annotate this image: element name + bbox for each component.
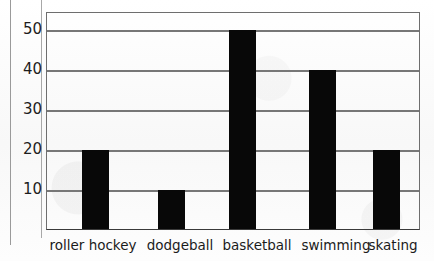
ytick-label-10: 10: [14, 182, 42, 197]
plot-frame: [46, 12, 420, 230]
x-axis-labels: roller hockey dodgeball basketball swimm…: [0, 236, 434, 258]
chart-page: 50 40 30 20 10 roller hockey dodgeball b…: [0, 0, 434, 261]
bar-chart: 50 40 30 20 10 roller hockey dodgeball b…: [0, 0, 434, 261]
ytick-label-30: 30: [14, 102, 42, 117]
xlabel-basketball: basketball: [217, 236, 297, 254]
xlabel-skating: skating: [358, 236, 428, 254]
ytick-label-20: 20: [14, 142, 42, 157]
ytick-label-40: 40: [14, 62, 42, 77]
ytick-label-50: 50: [14, 22, 42, 37]
xlabel-dodgeball: dodgeball: [140, 236, 220, 254]
xlabel-roller-hockey: roller hockey: [48, 236, 138, 254]
